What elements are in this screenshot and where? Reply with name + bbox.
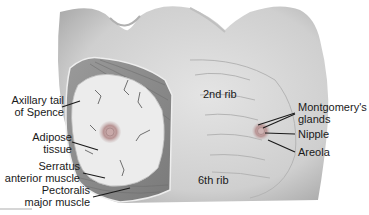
label-line: glands xyxy=(298,113,367,125)
label-line: tissue xyxy=(20,143,72,155)
label-adipose-tissue: Adipose tissue xyxy=(20,131,72,155)
label-line: Montgomery's xyxy=(298,101,367,113)
label-line: of Spence xyxy=(8,106,64,118)
label-line: Adipose xyxy=(20,131,72,143)
label-2nd-rib: 2nd rib xyxy=(203,88,237,100)
label-montgomery-glands: Montgomery's glands xyxy=(298,101,367,125)
divider-mark xyxy=(0,208,32,210)
label-serratus-anterior: Serratus anterior muscle xyxy=(0,160,80,184)
right-nipple xyxy=(258,128,265,135)
label-pectoralis-major: Pectoralis major muscle xyxy=(10,184,90,208)
left-nipple xyxy=(106,128,114,136)
label-nipple: Nipple xyxy=(298,128,329,140)
label-line: Axillary tail xyxy=(8,94,64,106)
label-line: Serratus xyxy=(0,160,80,172)
label-axillary-tail: Axillary tail of Spence xyxy=(8,94,64,118)
label-line: Pectoralis xyxy=(10,184,90,196)
breast-anatomy-diagram: Axillary tail of Spence Adipose tissue S… xyxy=(0,0,369,215)
label-line: anterior muscle xyxy=(0,172,80,184)
label-6th-rib: 6th rib xyxy=(198,174,229,186)
label-areola: Areola xyxy=(298,146,330,158)
label-line: major muscle xyxy=(10,196,90,208)
